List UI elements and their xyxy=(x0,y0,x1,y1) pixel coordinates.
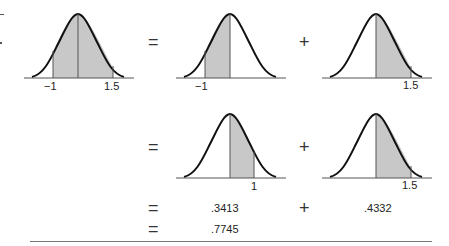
axis-label-neg1: −1 xyxy=(44,80,57,92)
equals-sign: = xyxy=(148,220,159,238)
margin-tick xyxy=(0,14,4,15)
normal-curve-shaded-0-to-1.5 xyxy=(320,8,440,80)
probability-total: .7745 xyxy=(211,223,239,235)
plus-sign: + xyxy=(299,33,310,51)
equals-sign: = xyxy=(148,199,159,217)
axis-label-1.5: 1.5 xyxy=(104,80,119,92)
equals-sign: = xyxy=(148,138,159,156)
axis-label-neg1: −1 xyxy=(195,80,208,92)
margin-tick xyxy=(0,42,2,44)
probability-value-b: .4332 xyxy=(364,202,392,214)
axis-label-1.5: 1.5 xyxy=(402,179,417,191)
bottom-divider xyxy=(30,241,432,242)
plus-sign: + xyxy=(299,199,310,217)
normal-curve-shaded-neg1-to-1.5 xyxy=(22,8,142,80)
normal-curve-shaded-0-to-1 xyxy=(174,108,294,180)
axis-label-1: 1 xyxy=(251,180,257,192)
normal-curve-shaded-0-to-1.5 xyxy=(320,108,440,180)
axis-label-1.5: 1.5 xyxy=(403,79,418,91)
probability-value-a: .3413 xyxy=(211,202,239,214)
plus-sign: + xyxy=(299,138,310,156)
normal-curve-shaded-neg1-to-0 xyxy=(174,8,294,80)
equals-sign: = xyxy=(148,33,159,51)
